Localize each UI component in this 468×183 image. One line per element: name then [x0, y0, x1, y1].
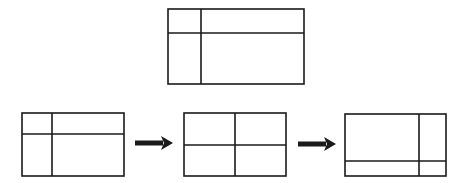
layout-1-frame — [22, 113, 124, 176]
layout-3-frame — [345, 114, 446, 176]
reference-frame — [168, 9, 304, 84]
layout-1 — [22, 113, 124, 176]
arrow-right-icon — [135, 136, 173, 150]
layout-3 — [345, 114, 446, 176]
arrow-right-icon — [298, 137, 336, 151]
layout-diagram — [0, 0, 468, 183]
reference-layout — [168, 9, 304, 84]
layout-sequence — [22, 113, 446, 176]
layout-2 — [184, 113, 286, 176]
